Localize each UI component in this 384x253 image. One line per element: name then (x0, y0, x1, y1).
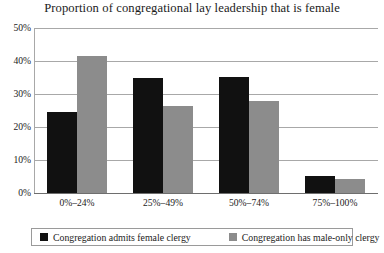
y-tick-label-1: 10% (1, 154, 31, 165)
plot-area (34, 28, 378, 193)
gridline-0 (34, 193, 378, 194)
y-tick-label-5: 50% (1, 22, 31, 33)
y-tick-label-4: 40% (1, 55, 31, 66)
x-tick-label-3: 75%–100% (292, 197, 378, 208)
legend-label-1: Congregation has male-only clergy (242, 232, 380, 243)
chart-title: Proportion of congregational lay leaders… (0, 1, 384, 16)
x-tick-label-0: 0%–24% (34, 197, 120, 208)
gridline-50 (34, 28, 378, 29)
bar-3-1 (335, 179, 365, 193)
x-tick-label-1: 25%–49% (120, 197, 206, 208)
bar-2-0 (219, 77, 249, 193)
legend-entry-0: Congregation admits female clergy (40, 232, 191, 243)
bar-0-0 (47, 112, 77, 193)
chart-legend: Congregation admits female clergy Congre… (31, 228, 353, 246)
bar-chart-figure: Proportion of congregational lay leaders… (0, 0, 384, 253)
y-tick-label-2: 20% (1, 121, 31, 132)
bar-2-1 (249, 101, 279, 193)
bar-0-1 (77, 56, 107, 193)
y-tick-label-3: 30% (1, 88, 31, 99)
legend-entry-1: Congregation has male-only clergy (229, 232, 380, 243)
y-tick-label-0: 0% (1, 187, 31, 198)
bar-1-0 (133, 78, 163, 193)
legend-swatch-icon-0 (40, 233, 48, 241)
legend-label-0: Congregation admits female clergy (53, 232, 191, 243)
bar-1-1 (163, 106, 193, 193)
legend-swatch-icon-1 (229, 233, 237, 241)
x-tick-label-2: 50%–74% (206, 197, 292, 208)
bar-3-0 (305, 176, 335, 193)
